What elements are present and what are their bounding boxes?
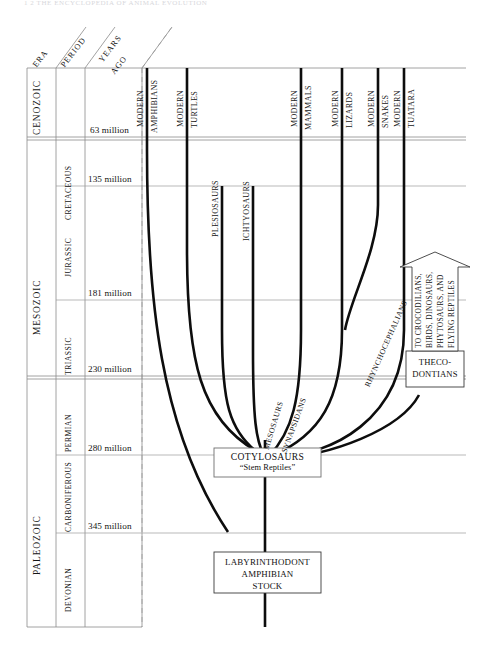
lineage-label-tuatara-modern: MODERN	[394, 75, 402, 127]
cotylosaurs-label-main: COTYLOSAURS	[214, 451, 321, 462]
year-marker-280: 280 million	[88, 443, 132, 453]
lineage-ichthyosaurs	[253, 186, 264, 456]
lineage-label-ichthyosaurs: ICHTYOSAURS	[243, 175, 251, 241]
arrow-label-line1: TO CROCODILIANS,	[415, 268, 423, 348]
lineage-label-plesiosaurs: PLESIOSAURS	[212, 175, 220, 237]
period-label-cretaceous: CRETACEOUS	[65, 148, 73, 220]
labyrinthodont-label-line3: STOCK	[214, 581, 321, 591]
lineage-label-mammals: MAMMALS	[305, 78, 313, 130]
period-label-carboniferous: CARBONIFEROUS	[65, 460, 73, 532]
era-label-cenozoic: CENOZOIC	[33, 73, 42, 135]
year-marker-230: 230 million	[88, 364, 132, 374]
lineage-label-tuatara: TUATARA	[408, 80, 416, 128]
grid-rules	[27, 68, 466, 627]
phylogeny-figure: 1 2 THE ENCYCLOPEDIA OF ANIMAL EVOLUTION	[0, 0, 490, 650]
lineage-label-amphibians-modern: MODERN	[137, 75, 145, 127]
lineage-label-mammals-modern: MODERN	[291, 75, 299, 127]
lineage-label-snakes-modern: MODERN	[368, 75, 376, 127]
year-marker-135: 135 million	[88, 174, 132, 184]
period-label-permian: PERMIAN	[65, 392, 73, 452]
year-marker-345: 345 million	[88, 521, 132, 531]
arrow-label-line2: BIRDS, DINOSAURS,	[426, 268, 434, 348]
cotylosaurs-label-sub: “Stem Reptiles”	[214, 463, 321, 473]
era-label-paleozoic: PALEOZOIC	[33, 455, 42, 575]
labyrinthodont-label-line1: LABYRINTHODONT	[214, 557, 321, 567]
thecodontians-label-line1: THECO-	[406, 358, 464, 368]
lineage-label-amphibians: AMPHIBIANS	[151, 65, 159, 133]
year-marker-63: 63 million	[90, 125, 129, 135]
lineage-label-lizards-modern: MODERN	[332, 75, 340, 127]
period-label-jurassic: JURASSIC	[65, 215, 73, 277]
lineage-label-turtles-modern: MODERN	[177, 75, 185, 127]
period-label-triassic: TRIASSIC	[65, 315, 73, 375]
period-label-devonian: DEVONIAN	[65, 548, 73, 612]
era-label-mesozoic: MESOZOIC	[33, 215, 42, 335]
lineage-label-lizards: LIZARDS	[346, 80, 354, 128]
labyrinthodont-label-line2: AMPHIBIAN	[214, 569, 321, 579]
thecodontians-label-line2: DONTIANS	[406, 370, 464, 380]
lineage-label-turtles: TURTLES	[191, 80, 199, 128]
year-marker-181: 181 million	[88, 288, 132, 298]
arrow-label-line4: FLYING REPTILES	[448, 268, 456, 348]
thecodontian-arrow	[400, 252, 470, 351]
lineage-label-snakes: SNAKES	[382, 82, 390, 128]
arrow-label-line3: PHYTOSAURS, AND	[437, 268, 445, 348]
